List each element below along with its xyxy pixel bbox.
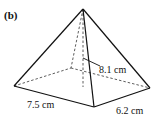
front-lateral-edge bbox=[83, 9, 94, 107]
slant-height-label: 8.1 cm bbox=[99, 64, 126, 75]
left-lateral-edge bbox=[14, 9, 83, 86]
slant-height-line bbox=[83, 58, 100, 66]
hidden-edges bbox=[14, 9, 150, 88]
base-width-label: 6.2 cm bbox=[116, 105, 143, 116]
pyramid-diagram: (b) 8.1 cm 7.5 cm 6.2 cm bbox=[0, 0, 156, 121]
back-lateral-edge bbox=[71, 9, 83, 68]
base-length-label: 7.5 cm bbox=[27, 99, 54, 110]
right-lateral-edge bbox=[83, 9, 150, 88]
visible-edges bbox=[14, 9, 150, 107]
figure-label: (b) bbox=[4, 9, 18, 22]
